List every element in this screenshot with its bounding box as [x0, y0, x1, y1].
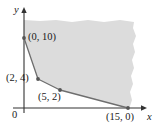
- vertex-label-0-10: (0, 10): [28, 32, 56, 43]
- vertex-label-5-2: (5, 2): [38, 92, 61, 103]
- vertex-marker-15-0: [126, 106, 130, 110]
- feasible-region-figure: (0, 10) (2, 4) (5, 2) (15, 0) y x 0: [0, 0, 162, 133]
- y-axis-label: y: [14, 5, 19, 16]
- origin-label: 0: [12, 110, 17, 121]
- vertex-marker-0-10: [22, 36, 26, 40]
- x-axis-label: x: [147, 112, 152, 123]
- x-axis-arrowhead: [141, 105, 147, 110]
- vertex-marker-2-4: [36, 77, 40, 81]
- vertex-label-15-0: (15, 0): [106, 112, 134, 123]
- vertex-label-2-4: (2, 4): [6, 73, 29, 84]
- graph-canvas: [0, 0, 162, 133]
- y-axis-arrowhead: [21, 7, 26, 13]
